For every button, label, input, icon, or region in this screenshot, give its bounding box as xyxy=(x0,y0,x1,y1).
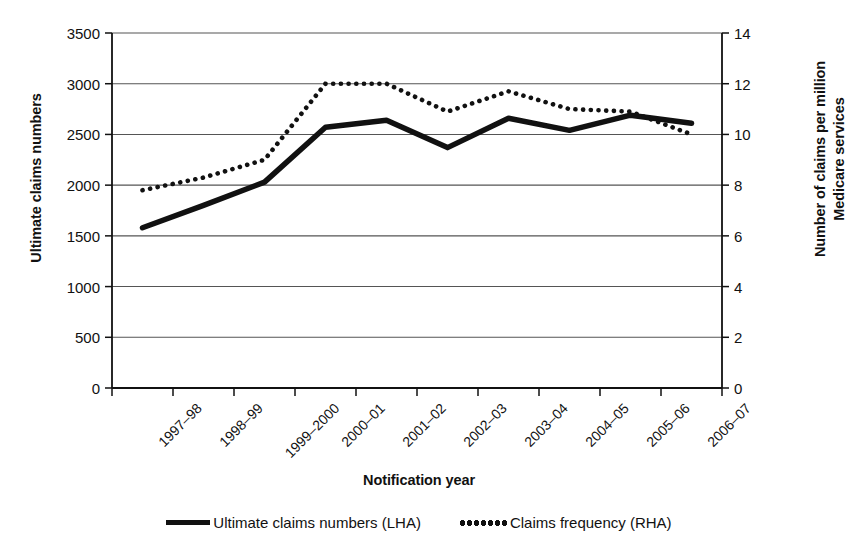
data-series xyxy=(143,84,692,228)
legend-item[interactable]: Claims frequency (RHA) xyxy=(459,514,672,531)
legend-item-label: Ultimate claims numbers (LHA) xyxy=(213,514,421,531)
legend-item-label: Claims frequency (RHA) xyxy=(510,514,672,531)
legend-solid-line-icon xyxy=(166,520,210,525)
legend-dotted-line-icon xyxy=(459,520,507,526)
chart-legend: Ultimate claims numbers (LHA)Claims freq… xyxy=(0,514,838,531)
tick-marks xyxy=(105,33,729,396)
series-line-dotted xyxy=(143,84,692,190)
axis-lines xyxy=(112,33,722,388)
legend-item[interactable]: Ultimate claims numbers (LHA) xyxy=(166,514,421,531)
gridlines xyxy=(112,33,722,388)
